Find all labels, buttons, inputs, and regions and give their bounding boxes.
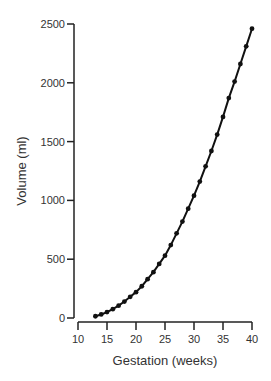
data-point — [226, 96, 231, 101]
y-tick-label: 1500 — [41, 136, 65, 148]
x-tick-label: 30 — [188, 333, 200, 345]
data-point — [145, 277, 150, 282]
data-point — [168, 243, 173, 248]
x-tick-label: 10 — [72, 333, 84, 345]
chart-canvas: 05001000150020002500 10152025303540 Volu… — [0, 0, 271, 381]
data-point — [157, 262, 162, 267]
data-point — [186, 206, 191, 211]
x-tick-label: 40 — [246, 333, 258, 345]
x-tick-label: 15 — [101, 333, 113, 345]
x-tick-label: 20 — [130, 333, 142, 345]
data-point — [232, 79, 237, 84]
x-axis: 10152025303540 — [72, 322, 258, 345]
data-point — [151, 270, 156, 275]
y-tick-label: 500 — [47, 253, 65, 265]
data-point — [203, 164, 208, 169]
y-tick-label: 1000 — [41, 194, 65, 206]
data-point — [244, 44, 249, 49]
data-point — [99, 312, 104, 317]
data-point — [105, 310, 110, 315]
x-tick-label: 25 — [159, 333, 171, 345]
y-tick-label: 2000 — [41, 77, 65, 89]
data-point — [238, 62, 243, 67]
y-axis: 05001000150020002500 — [41, 18, 74, 324]
data-point — [209, 149, 214, 154]
data-point — [110, 307, 115, 312]
series-line — [95, 29, 252, 317]
y-tick-label: 0 — [59, 312, 65, 324]
y-axis-title: Volume (ml) — [14, 136, 29, 205]
data-point — [134, 290, 139, 295]
data-point — [215, 132, 220, 137]
data-point — [174, 231, 179, 236]
x-tick-label: 35 — [217, 333, 229, 345]
data-point — [93, 314, 98, 319]
data-point — [163, 253, 168, 258]
data-point — [250, 26, 255, 31]
data-point — [139, 284, 144, 289]
data-point — [116, 303, 121, 308]
data-point — [122, 299, 127, 304]
data-point — [221, 115, 226, 120]
data-series — [93, 26, 254, 318]
data-point — [192, 193, 197, 198]
data-point — [180, 219, 185, 224]
data-point — [197, 179, 202, 184]
y-tick-label: 2500 — [41, 18, 65, 30]
x-axis-title: Gestation (weeks) — [113, 353, 218, 368]
data-point — [128, 294, 133, 299]
